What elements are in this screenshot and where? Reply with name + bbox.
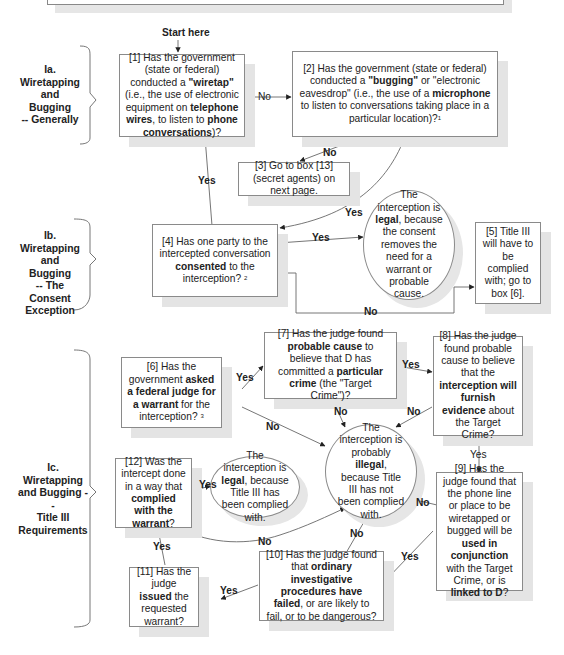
section-ic-line: Requirements (18, 525, 88, 538)
edge-label-12-legal: Yes (199, 479, 217, 490)
box-4-consent: [4] Has one party to the intercepted con… (152, 224, 278, 297)
section-ib-line: Ib. (20, 230, 80, 243)
section-ib-label: Ib. Wiretapping and Bugging -- The Conse… (20, 230, 80, 318)
edge-label-4-legal: Yes (312, 232, 330, 243)
edge-label-7-illegal: No (334, 406, 348, 417)
section-ic-line: Wiretapping (18, 475, 88, 488)
section-ib-line: Exception (20, 305, 80, 318)
edge-label-2-4: Yes (345, 207, 363, 218)
section-ib-line: Wiretapping (20, 243, 80, 256)
edge-label-10-illegal: No (350, 528, 364, 539)
edge-label-11-12: Yes (153, 541, 171, 552)
edge-label-12-illegal: No (258, 536, 272, 547)
node-text: [7] Has the judge found probable cause t… (270, 328, 391, 402)
section-ib-line: Consent (20, 293, 80, 306)
edge-label-6-7: Yes (236, 372, 254, 383)
edge-label-7-8: Yes (402, 359, 420, 370)
node-text: [4] Has one party to the intercepted con… (158, 236, 272, 286)
circle-legal-consent: The interception is legal, because the c… (363, 190, 455, 300)
node-text: [5] Title III will have to be complied w… (481, 226, 535, 300)
section-ia-line: and Bugging (20, 89, 80, 114)
edge-label-10-11: Yes (220, 585, 238, 596)
box-7-probable-cause: [7] Has the judge found probable cause t… (264, 332, 397, 399)
section-ic-line: Ic. (18, 462, 88, 475)
section-ia-line: Wiretapping (20, 77, 80, 90)
start-label: Start here (162, 27, 210, 38)
box-9-conjunction: [9] Has the judge found that the phone l… (436, 472, 523, 591)
edge-label-6-illegal: No (266, 421, 280, 432)
box-11-issued: [11] Has the judge issued the requested … (129, 567, 199, 627)
section-ib-line: -- The (20, 280, 80, 293)
node-text: [6] Has the government asked a federal j… (127, 361, 216, 423)
node-text: The interception is legal, because the c… (374, 189, 444, 301)
previous-content-box (47, 0, 504, 5)
node-text: [12] Was the intercept done in a way tha… (121, 456, 186, 530)
box-2-bugging: [2] Has the government (state or federal… (292, 51, 498, 137)
node-text: The interception is probably illegal, be… (336, 422, 406, 521)
node-text: [1] Has the government (state or federal… (125, 52, 239, 139)
edge-label-1-4: Yes (198, 175, 216, 186)
circle-legal-title-iii: The interception is legal, because Title… (210, 456, 300, 518)
node-text: [9] Has the judge found that the phone l… (442, 463, 517, 599)
box-8-evidence: [8] Has the judge found probable cause t… (433, 336, 523, 436)
section-ia-line: -- Generally (20, 114, 80, 127)
node-text: The interception is legal, because Title… (221, 450, 289, 524)
node-text: [10] Has the judge found that ordinary i… (265, 549, 378, 623)
section-ic-line: and Bugging -- (18, 487, 88, 512)
section-ia-label: Ia. Wiretapping and Bugging -- Generally (20, 64, 80, 127)
box-12-complied: [12] Was the intercept done in a way tha… (115, 458, 192, 528)
edge-label-4-5: No (364, 306, 378, 317)
edge-label-8-illegal: No (407, 406, 421, 417)
edge-label-1-2: No (258, 91, 271, 102)
node-text: [2] Has the government (state or federal… (298, 63, 492, 125)
box-6-warrant-request: [6] Has the government asked a federal j… (121, 357, 222, 428)
box-1-wiretap: [1] Has the government (state or federal… (119, 54, 245, 137)
section-ib-line: and Bugging (20, 255, 80, 280)
section-ic-line: Title III (18, 512, 88, 525)
node-text: [8] Has the judge found probable cause t… (439, 330, 517, 442)
section-ia-line: Ia. (20, 64, 80, 77)
edge-label-9-10: Yes (401, 551, 419, 562)
box-3-goto-13: [3] Go to box [13] (secret agents) on ne… (238, 162, 350, 196)
node-text: [11] Has the judge issued the requested … (135, 566, 193, 628)
edge-label-8-9: Yes (470, 449, 487, 460)
edge-label-9-illegal: No (416, 497, 430, 508)
box-10-ordinary-procedures: [10] Has the judge found that ordinary i… (259, 551, 384, 621)
box-5-title-iii: [5] Title III will have to be complied w… (475, 222, 541, 304)
edge-label-2-3: No (323, 147, 337, 158)
circle-illegal: The interception is probably illegal, be… (325, 424, 417, 519)
section-ic-label: Ic. Wiretapping and Bugging -- Title III… (18, 462, 88, 537)
node-text: [3] Go to box [13] (secret agents) on ne… (244, 160, 344, 197)
